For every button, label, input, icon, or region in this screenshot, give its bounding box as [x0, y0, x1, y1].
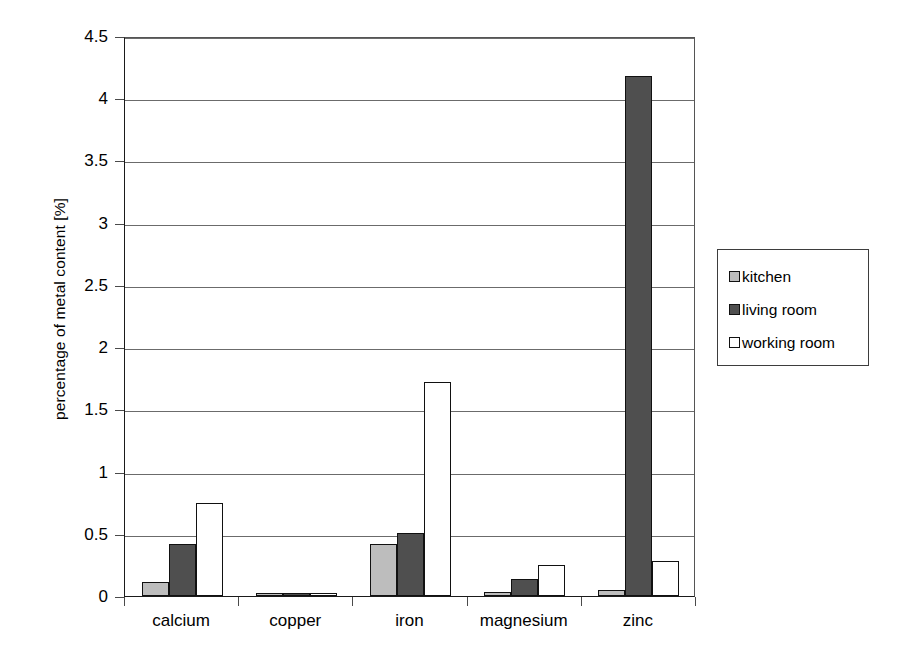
y-tick-mark [115, 410, 124, 411]
y-tick-label: 2.5 [8, 276, 108, 296]
bar [538, 565, 565, 596]
y-tick-label: 4 [8, 89, 108, 109]
x-tick-mark [581, 597, 582, 606]
gridline [125, 100, 694, 101]
y-tick-mark [115, 597, 124, 598]
y-tick-mark [115, 348, 124, 349]
bar [283, 593, 310, 596]
legend-label: kitchen [742, 268, 791, 286]
bar [625, 76, 652, 596]
gridline [125, 349, 694, 350]
legend-label: living room [742, 301, 817, 319]
bar [511, 579, 538, 596]
x-tick-mark [695, 597, 696, 606]
y-tick-label: 1 [8, 463, 108, 483]
bar [598, 590, 625, 596]
bar [196, 503, 223, 596]
y-tick-label: 4.5 [8, 27, 108, 47]
bar-chart-figure: percentage of metal content [%] 00.511.5… [0, 0, 918, 655]
gridline [125, 38, 694, 39]
bar [169, 544, 196, 596]
bar [397, 533, 424, 596]
y-tick-mark [115, 161, 124, 162]
y-tick-mark [115, 286, 124, 287]
gridline [125, 474, 694, 475]
x-tick-mark [467, 597, 468, 606]
legend-item: working room [729, 326, 868, 359]
plot-area [124, 37, 695, 597]
bar [310, 593, 337, 596]
y-tick-label: 0.5 [8, 525, 108, 545]
legend-swatch-icon [729, 271, 740, 282]
legend-swatch-icon [729, 337, 740, 348]
legend-swatch-icon [729, 304, 740, 315]
legend-label: working room [742, 334, 835, 352]
bar [370, 544, 397, 596]
gridline [125, 411, 694, 412]
bar [142, 582, 169, 596]
y-tick-mark [115, 535, 124, 536]
y-tick-mark [115, 473, 124, 474]
y-tick-mark [115, 37, 124, 38]
x-tick-mark [124, 597, 125, 606]
y-tick-label: 3.5 [8, 151, 108, 171]
y-tick-label: 2 [8, 338, 108, 358]
y-tick-mark [115, 99, 124, 100]
bar [256, 593, 283, 596]
bar [484, 592, 511, 596]
bar [652, 561, 679, 596]
x-tick-label: zinc [548, 611, 728, 631]
gridline [125, 225, 694, 226]
gridline [125, 287, 694, 288]
bar [424, 382, 451, 596]
gridline [125, 162, 694, 163]
x-tick-mark [352, 597, 353, 606]
y-tick-label: 1.5 [8, 400, 108, 420]
x-tick-mark [238, 597, 239, 606]
legend-item: kitchen [729, 260, 868, 293]
y-tick-mark [115, 224, 124, 225]
legend: kitchenliving roomworking room [717, 249, 869, 366]
y-tick-label: 3 [8, 214, 108, 234]
y-tick-label: 0 [8, 587, 108, 607]
legend-item: living room [729, 293, 868, 326]
